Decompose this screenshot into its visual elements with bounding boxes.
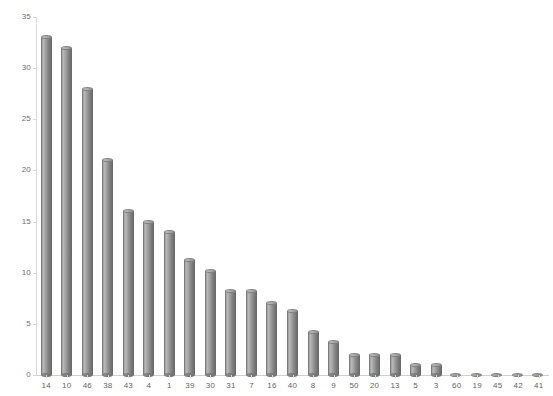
x-axis-tick-label: 38 bbox=[98, 381, 118, 391]
bar bbox=[324, 15, 344, 375]
y-axis-tick-mark bbox=[33, 119, 37, 120]
x-axis-tick-label: 43 bbox=[118, 381, 138, 391]
bar-cylinder bbox=[349, 355, 360, 375]
x-axis-tick-label: 31 bbox=[221, 381, 241, 391]
x-axis-tick-mark bbox=[518, 375, 519, 378]
x-axis-tick-mark bbox=[87, 375, 88, 378]
bar-cylinder bbox=[225, 291, 236, 375]
x-axis-tick-mark bbox=[190, 375, 191, 378]
bars-layer bbox=[36, 0, 549, 396]
y-axis-tick-mark bbox=[33, 375, 37, 376]
x-axis-tick-mark bbox=[313, 375, 314, 378]
x-axis-tick-label: 10 bbox=[57, 381, 77, 391]
x-axis-tick-label: 3 bbox=[426, 381, 446, 391]
y-axis-tick-mark bbox=[33, 222, 37, 223]
x-axis-tick-label: 1 bbox=[159, 381, 179, 391]
x-axis-tick-mark bbox=[210, 375, 211, 378]
x-axis-tick-mark bbox=[293, 375, 294, 378]
x-axis-tick-mark bbox=[416, 375, 417, 378]
y-axis-tick-mark bbox=[33, 17, 37, 18]
x-axis-tick-mark bbox=[498, 375, 499, 378]
bar bbox=[488, 15, 508, 375]
x-axis-tick-label: 9 bbox=[324, 381, 344, 391]
bar-cylinder bbox=[123, 211, 134, 375]
bar bbox=[344, 15, 364, 375]
bar-cylinder bbox=[205, 271, 216, 375]
x-axis-tick-label: 16 bbox=[262, 381, 282, 391]
y-axis-tick-label: 25 bbox=[5, 115, 31, 123]
x-axis-tick-label: 13 bbox=[385, 381, 405, 391]
bar bbox=[365, 15, 385, 375]
x-axis-tick-label: 60 bbox=[447, 381, 467, 391]
x-axis-tick-label: 45 bbox=[488, 381, 508, 391]
x-axis-tick-mark bbox=[128, 375, 129, 378]
x-axis-tick-mark bbox=[108, 375, 109, 378]
bar bbox=[529, 15, 549, 375]
bar bbox=[262, 15, 282, 375]
x-axis-tick-labels: 1410463843413930317164089502013536019454… bbox=[36, 381, 549, 395]
bar-cylinder bbox=[82, 89, 93, 375]
bar bbox=[200, 15, 220, 375]
y-axis-tick-mark bbox=[33, 68, 37, 69]
y-axis-tick-mark bbox=[33, 170, 37, 171]
bar-cylinder bbox=[143, 222, 154, 375]
x-axis-tick-mark bbox=[231, 375, 232, 378]
bar-chart: 05101520253035 1410463843413930317164089… bbox=[0, 0, 553, 396]
x-axis-tick-mark bbox=[457, 375, 458, 378]
x-axis-tick-label: 39 bbox=[180, 381, 200, 391]
bar bbox=[303, 15, 323, 375]
x-axis-tick-label: 30 bbox=[200, 381, 220, 391]
x-axis-tick-label: 4 bbox=[139, 381, 159, 391]
x-axis-tick-mark bbox=[395, 375, 396, 378]
y-axis-tick-label: 15 bbox=[5, 218, 31, 226]
bar-cylinder bbox=[410, 365, 421, 375]
bar bbox=[77, 15, 97, 375]
x-axis-tick-mark bbox=[436, 375, 437, 378]
bar bbox=[447, 15, 467, 375]
x-axis-tick-mark bbox=[539, 375, 540, 378]
x-axis-tick-mark bbox=[375, 375, 376, 378]
bar bbox=[508, 15, 528, 375]
bar bbox=[426, 15, 446, 375]
x-axis-tick-label: 50 bbox=[344, 381, 364, 391]
bar-cylinder bbox=[390, 355, 401, 375]
y-axis-tick-mark bbox=[33, 324, 37, 325]
bar bbox=[139, 15, 159, 375]
y-axis-tick-label: 20 bbox=[5, 166, 31, 174]
bar-cylinder bbox=[246, 291, 257, 375]
x-axis-tick-label: 20 bbox=[365, 381, 385, 391]
y-axis-tick-label: 35 bbox=[5, 13, 31, 21]
bar bbox=[57, 15, 77, 375]
x-axis-tick-label: 8 bbox=[303, 381, 323, 391]
x-axis-tick-label: 14 bbox=[36, 381, 56, 391]
y-axis-tick-label: 10 bbox=[5, 269, 31, 277]
bar bbox=[467, 15, 487, 375]
x-axis-tick-label: 19 bbox=[467, 381, 487, 391]
x-axis-tick-label: 7 bbox=[241, 381, 261, 391]
x-axis-tick-label: 5 bbox=[406, 381, 426, 391]
x-axis-tick-mark bbox=[169, 375, 170, 378]
bar-cylinder bbox=[308, 332, 319, 375]
bar bbox=[406, 15, 426, 375]
x-axis-tick-mark bbox=[272, 375, 273, 378]
x-axis-tick-label: 40 bbox=[283, 381, 303, 391]
x-axis-tick-mark bbox=[67, 375, 68, 378]
bar bbox=[180, 15, 200, 375]
x-axis-tick-mark bbox=[46, 375, 47, 378]
bar-cylinder bbox=[184, 260, 195, 375]
bar bbox=[118, 15, 138, 375]
x-axis-tick-mark bbox=[334, 375, 335, 378]
bar-cylinder bbox=[102, 160, 113, 375]
y-axis-tick-mark bbox=[33, 273, 37, 274]
x-axis-tick-mark bbox=[354, 375, 355, 378]
bar-cylinder bbox=[287, 311, 298, 375]
y-axis-tick-label: 5 bbox=[5, 320, 31, 328]
bar-cylinder bbox=[61, 48, 72, 375]
bar-cylinder bbox=[369, 355, 380, 375]
x-axis-tick-mark bbox=[149, 375, 150, 378]
x-axis-tick-mark bbox=[477, 375, 478, 378]
bar-cylinder bbox=[266, 303, 277, 375]
bar bbox=[241, 15, 261, 375]
bar bbox=[36, 15, 56, 375]
bar bbox=[159, 15, 179, 375]
